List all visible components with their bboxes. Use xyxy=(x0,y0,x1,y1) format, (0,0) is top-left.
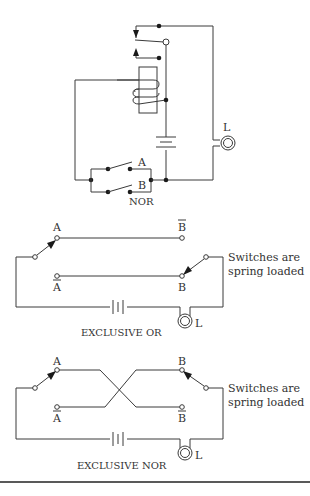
xnor-title: EXCLUSIVE NOR xyxy=(77,460,167,471)
note-line2: spring loaded xyxy=(228,265,304,278)
lamp-label: L xyxy=(223,121,231,134)
xor-title: EXCLUSIVE OR xyxy=(81,327,162,338)
terminal-a-bar-label: A xyxy=(52,412,62,425)
terminal-a-bar-label: A xyxy=(52,281,62,294)
nor-title: NOR xyxy=(129,196,154,207)
note-line2: spring loaded xyxy=(228,396,304,409)
terminal-a-label: A xyxy=(52,355,62,368)
xor-circuit: A B A B L EXCLUSIVE OR Switches are s xyxy=(16,220,304,338)
terminal-b-bar-label: B xyxy=(178,221,186,234)
note-line1: Switches are xyxy=(228,382,300,395)
terminal-a-label: A xyxy=(52,221,62,234)
lamp-label: L xyxy=(195,449,203,462)
note-line1: Switches are xyxy=(228,251,300,264)
lamp-label: L xyxy=(195,317,203,330)
terminal-b-label: B xyxy=(178,281,186,294)
xnor-circuit: A B A B L EXCLUSIVE NOR Switches are spr… xyxy=(16,355,304,471)
logic-circuits-diagram: L A B NOR A B A B xyxy=(0,0,310,496)
terminal-b-bar-label: B xyxy=(178,412,186,425)
nor-circuit: L A B NOR xyxy=(75,24,235,207)
switch-b-label: B xyxy=(138,179,146,192)
terminal-b-label: B xyxy=(178,355,186,368)
switch-a-label: A xyxy=(137,156,147,169)
